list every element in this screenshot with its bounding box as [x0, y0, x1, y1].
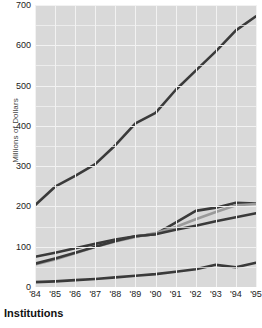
- x-tick-label: '84: [29, 289, 41, 299]
- gridline-horizontal: [35, 45, 257, 46]
- data-series-line: [35, 213, 256, 263]
- chart-figure: Millions of Dollars 01002003004005006007…: [0, 0, 262, 328]
- gridline-vertical: [236, 5, 237, 287]
- gridline-vertical: [75, 5, 76, 287]
- x-tick-label: '92: [190, 289, 202, 299]
- gridline-horizontal: [35, 166, 257, 167]
- y-tick-label: 700: [16, 0, 31, 10]
- gridline-horizontal-minor: [35, 25, 257, 26]
- y-tick-label: 600: [16, 40, 31, 50]
- y-axis-tick-labels: 0100200300400500600700: [0, 0, 34, 290]
- x-tick-label: '88: [109, 289, 121, 299]
- x-tick-label: '95: [250, 289, 262, 299]
- gridline-vertical: [216, 5, 217, 287]
- y-tick-label: 100: [16, 242, 31, 252]
- gridline-horizontal-minor: [35, 186, 257, 187]
- gridline-vertical: [115, 5, 116, 287]
- y-tick-label: 500: [16, 81, 31, 91]
- x-tick-label: '91: [170, 289, 182, 299]
- gridline-horizontal-minor: [35, 267, 257, 268]
- gridline-vertical: [176, 5, 177, 287]
- y-tick-label: 200: [16, 201, 31, 211]
- x-tick-label: '94: [230, 289, 242, 299]
- gridline-vertical: [156, 5, 157, 287]
- gridline-horizontal: [35, 5, 257, 6]
- x-axis-tick-labels: '84'85'86'87'88'89'90'91'92'93'94'95: [35, 289, 257, 305]
- data-series-line: [35, 263, 256, 282]
- x-tick-label: '87: [89, 289, 101, 299]
- gridline-horizontal: [35, 126, 257, 127]
- gridline-horizontal-minor: [35, 106, 257, 107]
- gridline-vertical: [196, 5, 197, 287]
- x-tick-label: '90: [150, 289, 162, 299]
- x-tick-label: '85: [49, 289, 61, 299]
- x-tick-label: '86: [69, 289, 81, 299]
- x-tick-label: '93: [210, 289, 222, 299]
- chart-caption: Institutions: [4, 307, 63, 319]
- gridline-vertical: [256, 5, 257, 287]
- x-tick-label: '89: [130, 289, 142, 299]
- gridline-horizontal: [35, 206, 257, 207]
- gridline-horizontal-minor: [35, 65, 257, 66]
- gridline-horizontal-minor: [35, 227, 257, 228]
- y-tick-label: 400: [16, 121, 31, 131]
- gridline-horizontal-minor: [35, 146, 257, 147]
- gridline-horizontal: [35, 247, 257, 248]
- plot-area: [35, 5, 257, 287]
- gridline-horizontal: [35, 86, 257, 87]
- gridline-vertical: [35, 5, 36, 287]
- gridline-vertical: [135, 5, 136, 287]
- gridline-vertical: [95, 5, 96, 287]
- y-tick-label: 300: [16, 161, 31, 171]
- gridline-vertical: [55, 5, 56, 287]
